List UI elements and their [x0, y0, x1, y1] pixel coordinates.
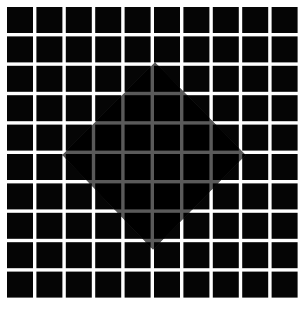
grid-square [183, 66, 209, 92]
grid-square [183, 213, 209, 239]
grid-square [7, 95, 33, 121]
grid-square [36, 7, 62, 33]
grid-square [36, 95, 62, 121]
grid-square [36, 242, 62, 268]
grid-square [272, 272, 298, 298]
grid-square [7, 36, 33, 62]
grid-square [66, 95, 92, 121]
grid-square [95, 242, 121, 268]
grid-square [7, 272, 33, 298]
grid-illusion-figure [0, 0, 303, 312]
grid-square [7, 7, 33, 33]
grid-square [242, 125, 268, 151]
grid-square [213, 272, 239, 298]
grid-square [95, 272, 121, 298]
grid-square [272, 154, 298, 180]
grid-square [183, 36, 209, 62]
grid-square [7, 183, 33, 209]
grid-square [242, 154, 268, 180]
grid-square [154, 242, 180, 268]
grid-square [36, 272, 62, 298]
grid-square [183, 272, 209, 298]
grid-square [242, 66, 268, 92]
grid-square [183, 7, 209, 33]
grid-square [242, 7, 268, 33]
grid-square [36, 66, 62, 92]
grid-square [154, 7, 180, 33]
grid-square [66, 213, 92, 239]
grid-square [242, 213, 268, 239]
grid-square [272, 183, 298, 209]
grid-square [95, 66, 121, 92]
grid-square [7, 213, 33, 239]
grid-square [125, 242, 151, 268]
grid-square [154, 272, 180, 298]
grid-square [95, 36, 121, 62]
grid-square [272, 7, 298, 33]
grid-square [66, 36, 92, 62]
grid-square [7, 242, 33, 268]
grid-square [95, 7, 121, 33]
grid-square [125, 272, 151, 298]
grid-square [213, 36, 239, 62]
grid-square [36, 213, 62, 239]
grid-illusion-canvas [0, 0, 303, 312]
grid-square [95, 213, 121, 239]
grid-square [125, 7, 151, 33]
grid-square [272, 242, 298, 268]
grid-square [36, 36, 62, 62]
grid-square [213, 95, 239, 121]
grid-square [272, 95, 298, 121]
grid-square [242, 242, 268, 268]
grid-square [272, 213, 298, 239]
grid-square [36, 125, 62, 151]
grid-square [66, 7, 92, 33]
grid-square [7, 125, 33, 151]
grid-square [213, 66, 239, 92]
grid-square [213, 242, 239, 268]
grid-square [66, 272, 92, 298]
grid-square [66, 183, 92, 209]
grid-square [183, 242, 209, 268]
grid-square [66, 66, 92, 92]
grid-square [213, 7, 239, 33]
grid-square [7, 66, 33, 92]
grid-square [242, 95, 268, 121]
grid-square [242, 272, 268, 298]
grid-square [213, 183, 239, 209]
grid-square [242, 36, 268, 62]
grid-square [272, 66, 298, 92]
grid-square [272, 125, 298, 151]
grid-square [36, 154, 62, 180]
grid-square [7, 154, 33, 180]
grid-square [36, 183, 62, 209]
grid-square [154, 36, 180, 62]
grid-square [125, 36, 151, 62]
grid-square [242, 183, 268, 209]
grid-square [272, 36, 298, 62]
grid-square [66, 242, 92, 268]
grid-square [213, 213, 239, 239]
